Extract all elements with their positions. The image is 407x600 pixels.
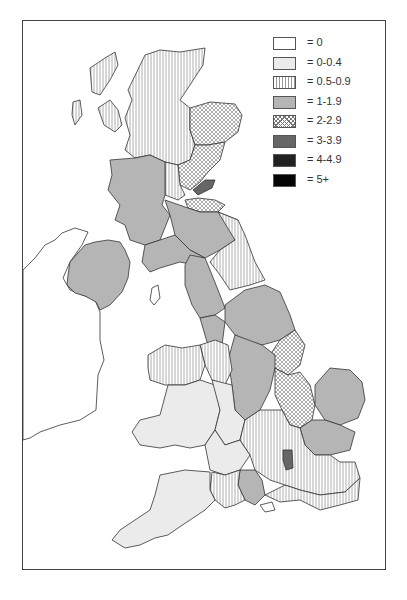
legend-swatch-vertical-hatch — [273, 76, 296, 89]
region-strathclyde — [108, 155, 170, 245]
region-highlands — [125, 48, 205, 165]
legend-swatch-crosshatch — [273, 115, 296, 128]
region-south-west-england — [112, 470, 215, 548]
choropleth-map — [0, 0, 407, 600]
legend-label: = 0-0.4 — [307, 56, 342, 68]
legend-label: = 5+ — [307, 173, 329, 185]
legend-label: = 4-4.9 — [307, 153, 342, 165]
legend-label: = 0.5-0.9 — [307, 75, 351, 87]
legend-swatch-near-black — [273, 154, 296, 167]
legend-label: = 3-3.9 — [307, 134, 342, 146]
region-isle-of-man — [150, 285, 160, 305]
legend-swatch-black — [273, 174, 296, 187]
legend-swatch-white — [273, 37, 296, 50]
region-western-isles — [90, 52, 118, 95]
region-grampian — [190, 102, 242, 145]
region-north-wales — [148, 345, 205, 385]
legend-label: = 2-2.9 — [307, 114, 342, 126]
region-norfolk — [315, 368, 365, 425]
region-isle-of-wight — [260, 502, 275, 512]
legend-label: = 0 — [307, 36, 323, 48]
legend-label: = 1-1.9 — [307, 95, 342, 107]
region-north-west-england — [200, 340, 232, 385]
legend-swatch-dark-grey — [273, 135, 296, 148]
legend-swatch-mid-grey — [273, 96, 296, 109]
legend-swatch-light-grey — [273, 57, 296, 70]
region-wales — [132, 380, 220, 448]
